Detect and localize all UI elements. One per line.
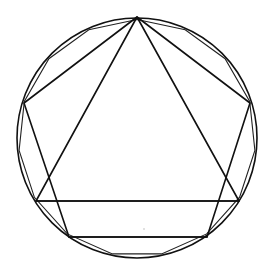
- inscribed-triangle: [36, 17, 239, 201]
- geometry-diagram: [0, 0, 275, 279]
- stray-dot: [143, 228, 145, 230]
- inscribed-15-gon: [19, 20, 255, 254]
- circumscribed-circle: [17, 18, 257, 258]
- diagram-canvas: [0, 0, 275, 279]
- inscribed-pentagon: [24, 17, 250, 237]
